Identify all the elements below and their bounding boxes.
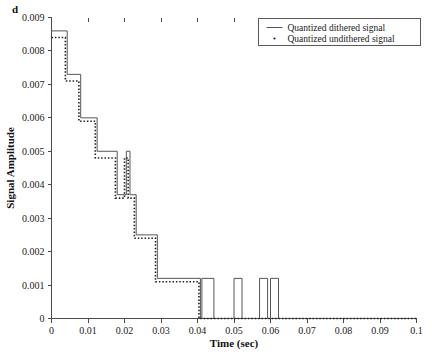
- x-axis-title: Time (sec): [210, 337, 259, 350]
- x-tick-label: 0.07: [298, 325, 316, 336]
- y-tick-label: 0.005: [22, 146, 45, 157]
- series-2: [52, 38, 417, 319]
- legend-label-2: Quantized undithered signal: [288, 34, 395, 44]
- y-tick-label: 0.009: [22, 12, 45, 23]
- x-tick-label: 0.01: [79, 325, 97, 336]
- axes: [48, 18, 417, 323]
- y-tick-label: 0.002: [22, 246, 45, 257]
- x-tick-label: 0: [49, 325, 54, 336]
- x-tick-label: 0.06: [262, 325, 280, 336]
- x-tick-label: 0.03: [152, 325, 170, 336]
- y-tick-label: 0.006: [22, 112, 45, 123]
- y-axis-title: Signal Amplitude: [4, 127, 16, 209]
- x-tick-label: 0.08: [335, 325, 353, 336]
- x-tick-label: 0.05: [225, 325, 243, 336]
- x-tick-label: 0.1: [410, 325, 423, 336]
- y-tick-label: 0.003: [22, 213, 45, 224]
- legend-label-1: Quantized dithered signal: [288, 23, 386, 33]
- plot-area: 00.010.020.030.040.050.060.070.080.090.1…: [0, 0, 432, 352]
- data-series: [52, 31, 417, 319]
- series-1: [52, 31, 417, 319]
- y-tick-label: 0.004: [22, 179, 45, 190]
- legend: Quantized dithered signalQuantized undit…: [259, 19, 421, 46]
- chart-figure: d 00.010.020.030.040.050.060.070.080.090…: [0, 0, 432, 352]
- y-tick-label: 0.001: [22, 280, 45, 291]
- x-tick-label: 0.04: [189, 325, 207, 336]
- y-tick-label: 0.007: [22, 79, 45, 90]
- legend-dot-sample: [273, 37, 275, 39]
- x-tick-label: 0.02: [116, 325, 134, 336]
- y-tick-label: 0: [40, 313, 45, 324]
- y-tick-label: 0.008: [22, 45, 45, 56]
- x-tick-label: 0.09: [371, 325, 389, 336]
